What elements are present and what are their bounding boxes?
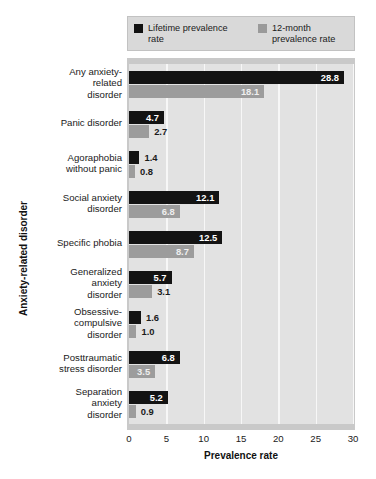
category-label-line: related [12, 77, 122, 88]
bar-value-label: 4.7 [129, 111, 159, 124]
bar-row: 1.0 [129, 325, 353, 338]
category-label-line: anxiety [12, 397, 122, 408]
bar-row: 5.7 [129, 271, 353, 284]
bar-group: 4.72.7 [129, 111, 353, 138]
black-swatch-icon [134, 24, 143, 33]
gray-swatch-icon [258, 24, 267, 33]
x-tick-label: 25 [304, 433, 328, 444]
bar-group: 1.40.8 [129, 151, 353, 178]
bar-row: 0.8 [129, 165, 353, 178]
bar-row: 1.4 [129, 151, 353, 164]
bar[interactable] [129, 285, 152, 298]
bar-row: 6.8 [129, 351, 353, 364]
category-label-line: Specific phobia [12, 237, 122, 248]
bar-row: 18.1 [129, 85, 353, 98]
bar-value-label: 8.7 [129, 245, 189, 258]
bar-value-label: 1.4 [144, 151, 157, 164]
x-tick-label: 20 [266, 433, 290, 444]
category-label-line: compulsive [12, 317, 122, 328]
bar-row: 3.5 [129, 365, 353, 378]
bar-value-label: 12.5 [129, 231, 217, 244]
bar-row: 8.7 [129, 245, 353, 258]
bar-value-label: 5.7 [129, 271, 167, 284]
bar[interactable] [129, 165, 135, 178]
bar-group: 12.16.8 [129, 191, 353, 218]
bar[interactable] [129, 125, 149, 138]
bar-row: 2.7 [129, 125, 353, 138]
category-label-line: Agoraphobia [12, 152, 122, 163]
category-label-line: stress disorder [12, 363, 122, 374]
x-tick-label: 30 [341, 433, 365, 444]
category-label-line: Separation [12, 386, 122, 397]
bar-value-label: 18.1 [129, 85, 259, 98]
category-label-line: anxiety [12, 277, 122, 288]
bar-row: 0.9 [129, 405, 353, 418]
category-label-line: Panic disorder [12, 117, 122, 128]
bar-value-label: 6.8 [129, 205, 175, 218]
bar-value-label: 6.8 [129, 351, 175, 364]
category-label-line: disorder [12, 89, 122, 100]
bar-value-label: 3.1 [157, 285, 170, 298]
gridline [353, 64, 354, 424]
legend-lifetime-line2: rate [148, 34, 228, 45]
bar-value-label: 5.2 [129, 391, 163, 404]
legend-lifetime-line1: Lifetime prevalence [148, 23, 228, 34]
prevalence-bar-chart: Lifetime prevalence rate 12-month preval… [0, 0, 376, 479]
legend-entry-lifetime-label: Lifetime prevalence rate [148, 23, 228, 45]
legend-12month-line2: prevalence rate [272, 34, 335, 45]
bar-value-label: 3.5 [129, 365, 150, 378]
bar-group: 1.61.0 [129, 311, 353, 338]
bar-row: 3.1 [129, 285, 353, 298]
category-label: Panic disorder [12, 117, 122, 128]
plot-area: 28.818.14.72.71.40.812.16.812.58.75.73.1… [129, 64, 353, 424]
bar-row: 4.7 [129, 111, 353, 124]
category-label-line: disorder [12, 289, 122, 300]
bar-group: 12.58.7 [129, 231, 353, 258]
bar-group: 5.20.9 [129, 391, 353, 418]
category-label: Specific phobia [12, 237, 122, 248]
bar-value-label: 0.8 [140, 165, 153, 178]
bar-value-label: 0.9 [141, 405, 154, 418]
bar-value-label: 1.0 [141, 325, 154, 338]
legend-entry-12month-label: 12-month prevalence rate [272, 23, 335, 45]
bar-row: 6.8 [129, 205, 353, 218]
category-label-line: Generalized [12, 266, 122, 277]
category-label-line: disorder [12, 203, 122, 214]
legend-entry-lifetime: Lifetime prevalence rate [134, 23, 258, 45]
bar-value-label: 1.6 [146, 311, 159, 324]
category-label: Generalizedanxietydisorder [12, 266, 122, 300]
category-label-line: disorder [12, 409, 122, 420]
bar-value-label: 28.8 [129, 71, 339, 84]
bar-row: 28.8 [129, 71, 353, 84]
bar[interactable] [129, 325, 136, 338]
bar-row: 1.6 [129, 311, 353, 324]
bar-row: 12.5 [129, 231, 353, 244]
category-label: Agoraphobiawithout panic [12, 152, 122, 175]
bar-value-label: 12.1 [129, 191, 214, 204]
bar-group: 6.83.5 [129, 351, 353, 378]
category-label-line: Any anxiety- [12, 66, 122, 77]
x-tick-label: 15 [229, 433, 253, 444]
category-label-line: Social anxiety [12, 192, 122, 203]
legend-entry-12month: 12-month prevalence rate [258, 23, 335, 45]
legend-12month-line1: 12-month [272, 23, 335, 34]
chart-legend: Lifetime prevalence rate 12-month preval… [127, 16, 355, 51]
bar-row: 5.2 [129, 391, 353, 404]
bar-group: 28.818.1 [129, 71, 353, 98]
bar[interactable] [129, 405, 136, 418]
category-label-line: disorder [12, 329, 122, 340]
category-label: Social anxietydisorder [12, 192, 122, 215]
x-tick-label: 0 [117, 433, 141, 444]
category-label-line: Posttraumatic [12, 352, 122, 363]
y-axis-title: Anxiety-related disorder [18, 159, 29, 359]
x-axis-title: Prevalence rate [129, 450, 353, 461]
bar-value-label: 2.7 [154, 125, 167, 138]
category-label: Obsessive-compulsivedisorder [12, 306, 122, 340]
category-label-line: Obsessive- [12, 306, 122, 317]
bar[interactable] [129, 151, 139, 164]
category-label: Any anxiety-relateddisorder [12, 66, 122, 100]
bar[interactable] [129, 311, 141, 324]
x-tick-label: 5 [154, 433, 178, 444]
category-label: Posttraumaticstress disorder [12, 352, 122, 375]
category-label: Separationanxietydisorder [12, 386, 122, 420]
